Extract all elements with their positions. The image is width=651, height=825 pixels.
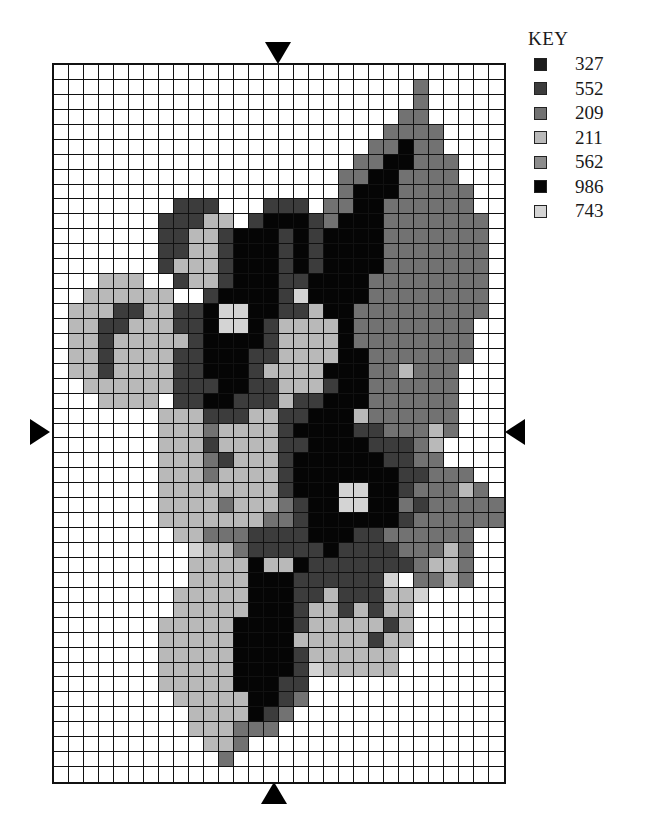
grid-cell: [339, 468, 354, 483]
grid-cell: [189, 110, 204, 125]
grid-cell: [309, 229, 324, 244]
grid-cell: [114, 140, 129, 155]
grid-cell: [204, 80, 219, 95]
grid-cell: [159, 663, 174, 678]
grid-cell: [189, 558, 204, 573]
grid-cell: [144, 185, 159, 200]
grid-cell: [69, 229, 84, 244]
grid-cell: [249, 573, 264, 588]
grid-cell: [294, 80, 309, 95]
grid-cell: [174, 707, 189, 722]
grid-cell: [84, 737, 99, 752]
grid-cell: [489, 438, 504, 453]
grid-cell: [144, 558, 159, 573]
grid-cell: [189, 498, 204, 513]
grid-cell: [99, 453, 114, 468]
grid-cell: [189, 289, 204, 304]
grid-cell: [54, 349, 69, 364]
grid-cell: [249, 648, 264, 663]
grid-cell: [369, 752, 384, 767]
grid-cell: [54, 573, 69, 588]
grid-cell: [279, 95, 294, 110]
grid-cell: [114, 364, 129, 379]
grid-cell: [444, 140, 459, 155]
grid-cell: [249, 80, 264, 95]
grid-cell: [444, 289, 459, 304]
grid-cell: [189, 409, 204, 424]
grid-cell: [309, 214, 324, 229]
grid-cell: [159, 65, 174, 80]
grid-cell: [264, 379, 279, 394]
grid-cell: [189, 603, 204, 618]
grid-cell: [459, 244, 474, 259]
grid-cell: [399, 304, 414, 319]
grid-cell: [69, 663, 84, 678]
grid-cell: [489, 229, 504, 244]
grid-cell: [474, 259, 489, 274]
grid-cell: [69, 394, 84, 409]
grid-cell: [174, 364, 189, 379]
grid-cell: [69, 259, 84, 274]
grid-cell: [474, 453, 489, 468]
grid-cell: [99, 483, 114, 498]
grid-cell: [429, 722, 444, 737]
grid-cell: [399, 558, 414, 573]
grid-cell: [279, 618, 294, 633]
grid-cell: [69, 558, 84, 573]
grid-cell: [324, 603, 339, 618]
grid-cell: [429, 692, 444, 707]
grid-cell: [474, 125, 489, 140]
grid-cell: [144, 289, 159, 304]
grid-cell: [84, 618, 99, 633]
grid-cell: [249, 334, 264, 349]
grid-cell: [69, 528, 84, 543]
grid-cell: [69, 274, 84, 289]
grid-cell: [159, 379, 174, 394]
grid-cell: [174, 543, 189, 558]
grid-cell: [54, 737, 69, 752]
grid-cell: [69, 722, 84, 737]
grid-cell: [279, 648, 294, 663]
grid-cell: [279, 543, 294, 558]
grid-cell: [384, 648, 399, 663]
grid-cell: [294, 379, 309, 394]
grid-cell: [279, 468, 294, 483]
grid-cell: [384, 140, 399, 155]
right-center-marker-icon: [505, 419, 525, 445]
grid-cell: [234, 692, 249, 707]
grid-cell: [369, 364, 384, 379]
grid-cell: [129, 513, 144, 528]
grid-cell: [459, 170, 474, 185]
grid-cell: [264, 767, 279, 782]
grid-cell: [294, 588, 309, 603]
grid-cell: [204, 244, 219, 259]
grid-cell: [294, 155, 309, 170]
grid-cell: [249, 453, 264, 468]
grid-cell: [204, 603, 219, 618]
grid-cell: [99, 767, 114, 782]
grid-cell: [279, 767, 294, 782]
grid-cell: [249, 349, 264, 364]
grid-cell: [249, 498, 264, 513]
grid-cell: [189, 424, 204, 439]
grid-cell: [384, 513, 399, 528]
grid-cell: [489, 513, 504, 528]
grid-cell: [444, 483, 459, 498]
grid-cell: [234, 453, 249, 468]
grid-cell: [114, 648, 129, 663]
grid-cell: [189, 80, 204, 95]
grid-cell: [219, 663, 234, 678]
grid-cell: [204, 125, 219, 140]
grid-cell: [264, 707, 279, 722]
grid-cell: [354, 80, 369, 95]
grid-cell: [279, 633, 294, 648]
grid-cell: [219, 199, 234, 214]
grid-cell: [309, 424, 324, 439]
grid-cell: [474, 722, 489, 737]
grid-cell: [339, 722, 354, 737]
grid-cell: [459, 692, 474, 707]
grid-cell: [54, 483, 69, 498]
grid-cell: [489, 409, 504, 424]
grid-cell: [309, 95, 324, 110]
grid-cell: [279, 214, 294, 229]
